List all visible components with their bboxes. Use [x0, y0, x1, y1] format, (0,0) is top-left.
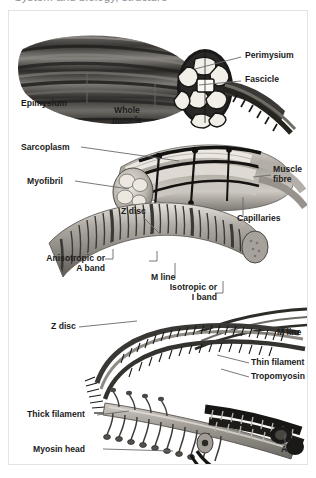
label-perimysium: Perimysium — [245, 51, 294, 61]
label-fascicle: Fascicle — [245, 75, 279, 85]
label-m-line-lower: M line — [277, 328, 301, 338]
label-sarcoplasm: Sarcoplasm — [21, 143, 70, 153]
label-myosin-head: Myosin head — [33, 445, 85, 455]
page-title: System and biology, structure — [14, 0, 168, 3]
label-whole-muscle: Whole muscle — [112, 106, 142, 125]
label-thick-filament: Thick filament — [27, 410, 85, 420]
thick-filament-illustration — [103, 388, 304, 464]
label-actin: Actin — [281, 445, 302, 455]
figure-frame: Perimysium Fascicle Epimysium Whole musc… — [8, 10, 308, 465]
label-muscle-fibre: Muscle fibre — [273, 165, 302, 184]
label-a-band: Anisotropic or A band — [23, 254, 105, 273]
label-i-band: Isotropic or I band — [149, 283, 217, 302]
page-title-strip: System and biology, structure — [0, 0, 316, 9]
label-thin-filament: Thin filament — [251, 358, 304, 368]
label-epimysium: Epimysium — [21, 99, 67, 109]
label-capillaries: Capillaries — [237, 214, 280, 224]
label-z-disc-lower: Z disc — [51, 322, 76, 332]
label-tropomyosin: Tropomyosin — [251, 372, 305, 382]
label-myofibril: Myofibril — [27, 177, 63, 187]
label-z-disc-upper: Z disc — [121, 207, 146, 217]
